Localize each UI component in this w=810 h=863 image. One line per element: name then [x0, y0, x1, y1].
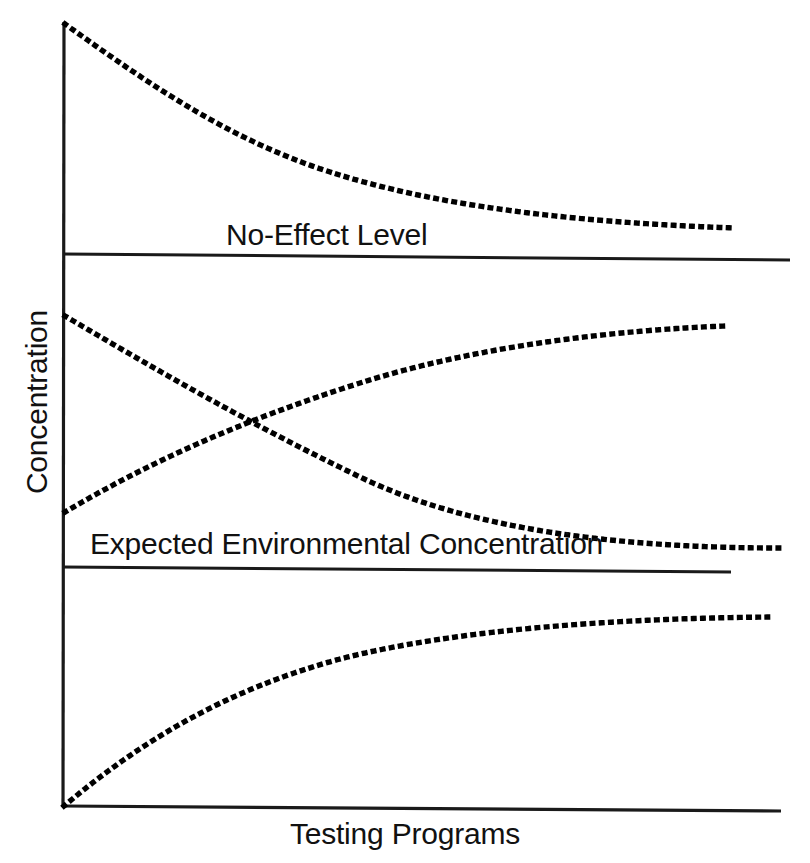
middle-rise-curve: [65, 326, 725, 512]
expected-environmental-concentration-line: [63, 567, 731, 572]
upper-decay-curve: [65, 24, 735, 228]
y-axis-label: Concentration: [21, 287, 53, 517]
lower-rise-curve: [64, 617, 775, 806]
expected-environmental-concentration-label: Expected Environmental Concentration: [90, 527, 603, 561]
y-axis-line: [63, 22, 64, 807]
no-effect-level-label: No-Effect Level: [226, 218, 428, 252]
x-axis-line: [63, 806, 781, 811]
middle-decay-curve: [65, 316, 780, 548]
no-effect-level-line: [63, 254, 790, 260]
x-axis-label: Testing Programs: [0, 816, 810, 852]
figure-canvas: No-Effect Level Expected Environmental C…: [0, 0, 810, 863]
chart-plot-area: [0, 0, 810, 863]
